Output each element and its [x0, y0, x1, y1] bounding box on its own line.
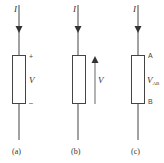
current-label-a: I — [13, 4, 18, 14]
current-arrow-c-icon — [135, 26, 142, 33]
resistor-voltage-diagram: I + V – (a) I V (b) I A VAB B (c) — [0, 0, 164, 163]
current-arrow-a-icon — [16, 26, 23, 33]
resistor-a — [13, 56, 26, 104]
panel-c: I A VAB B (c) — [131, 4, 160, 156]
terminal-a-label: A — [148, 52, 153, 59]
caption-b: (b) — [71, 147, 81, 156]
panel-a: I + V – (a) — [12, 4, 36, 156]
minus-terminal-a: – — [29, 99, 33, 106]
panel-b: I V (b) — [71, 4, 105, 156]
voltage-arrow-up-icon — [92, 56, 99, 63]
caption-a: (a) — [12, 147, 21, 156]
caption-c: (c) — [131, 147, 140, 156]
plus-terminal-a: + — [29, 53, 33, 60]
terminal-b-label: B — [148, 98, 153, 105]
resistor-c — [132, 56, 145, 104]
current-arrow-b-icon — [75, 26, 82, 33]
current-label-c: I — [132, 4, 137, 14]
current-label-b: I — [72, 4, 77, 14]
voltage-label-a: V — [29, 75, 36, 85]
voltage-label-c: VAB — [147, 75, 160, 86]
voltage-label-b: V — [98, 75, 105, 85]
resistor-b — [73, 56, 86, 104]
